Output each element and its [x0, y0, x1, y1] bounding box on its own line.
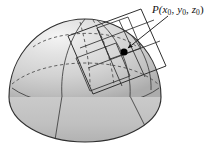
- figure-container: P(x0, y0, z0): [0, 0, 220, 161]
- hemisphere-dome: [9, 19, 161, 142]
- point-p-label: P(x0, y0, z0): [152, 3, 204, 17]
- hemisphere-tangent-plane-figure: [0, 0, 220, 161]
- point-p-marker: [120, 48, 127, 55]
- label-p: P(: [152, 3, 163, 15]
- dome-base-ellipse: [9, 97, 161, 142]
- label-suffix: ): [200, 3, 204, 15]
- dome-curved-surface: [9, 19, 161, 97]
